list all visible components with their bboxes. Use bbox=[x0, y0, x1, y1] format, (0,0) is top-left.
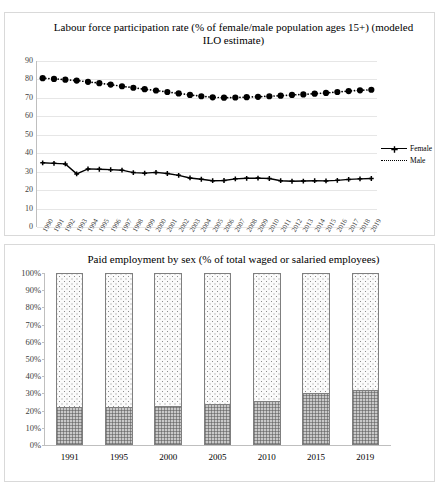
data-point-marker bbox=[289, 92, 295, 98]
legend-label-male: Male bbox=[410, 155, 425, 167]
data-point-marker bbox=[198, 93, 204, 99]
data-point-marker bbox=[97, 167, 102, 172]
line-chart-legend: Female Male bbox=[381, 143, 432, 167]
data-point-marker bbox=[278, 93, 284, 99]
y-axis-tick-label: 30 bbox=[25, 168, 33, 176]
data-point-marker bbox=[85, 79, 91, 85]
bar-segment-female bbox=[57, 407, 83, 444]
female-line-symbol bbox=[381, 144, 407, 154]
series-line-female bbox=[43, 163, 372, 181]
x-axis-tick-label: 1995 bbox=[94, 452, 143, 462]
x-axis-tick-label: 2010 bbox=[242, 452, 291, 462]
data-point-marker bbox=[120, 168, 125, 173]
line-chart-plot-area: 0102030405060708090199019911992199319941… bbox=[37, 61, 377, 227]
bar-segment-female bbox=[155, 406, 181, 444]
x-axis-tick-label: 2019 bbox=[341, 452, 390, 462]
data-point-marker bbox=[187, 92, 193, 98]
y-axis-tick-label: 10% bbox=[25, 424, 41, 432]
data-point-marker bbox=[130, 85, 136, 91]
stacked-bar bbox=[204, 273, 232, 445]
data-point-marker bbox=[290, 179, 295, 184]
data-point-marker bbox=[188, 176, 193, 181]
y-axis-tick-label: 80% bbox=[25, 303, 41, 311]
data-point-marker bbox=[368, 87, 374, 93]
data-point-marker bbox=[153, 87, 159, 93]
y-axis-tick-label: 40% bbox=[25, 372, 41, 380]
series-line-male bbox=[43, 78, 372, 98]
data-point-marker bbox=[176, 173, 181, 178]
y-axis-tick-label: 90% bbox=[25, 286, 41, 294]
stacked-bar bbox=[56, 273, 84, 445]
data-point-marker bbox=[335, 178, 340, 183]
bar-segment-male bbox=[106, 274, 132, 407]
bar-segment-female bbox=[303, 393, 329, 444]
data-point-marker bbox=[74, 77, 80, 83]
data-point-marker bbox=[300, 91, 306, 97]
y-axis-tick-label: 60 bbox=[25, 112, 33, 120]
data-point-marker bbox=[164, 89, 170, 95]
data-point-marker bbox=[62, 77, 68, 83]
data-point-marker bbox=[301, 179, 306, 184]
x-axis-tick-label: 2015 bbox=[291, 452, 340, 462]
data-point-marker bbox=[165, 171, 170, 176]
y-axis-tick-label: 70% bbox=[25, 321, 41, 329]
data-point-marker bbox=[96, 80, 102, 86]
x-axis-line bbox=[44, 445, 391, 446]
line-series-layer bbox=[37, 61, 377, 227]
y-axis-tick-label: 50% bbox=[25, 355, 41, 363]
stacked-bar bbox=[105, 273, 133, 445]
data-point-marker bbox=[142, 86, 148, 92]
x-axis-tick-label: 2005 bbox=[193, 452, 242, 462]
data-point-marker bbox=[334, 89, 340, 95]
data-point-marker bbox=[266, 93, 272, 99]
data-point-marker bbox=[131, 170, 136, 175]
data-point-marker bbox=[278, 178, 283, 183]
y-axis-tick-label: 30% bbox=[25, 389, 41, 397]
line-chart-panel: Labour force participation rate (% of fe… bbox=[4, 12, 435, 236]
x-axis-tick-label: 2000 bbox=[144, 452, 193, 462]
bar-chart-title: Paid employment by sex (% of total waged… bbox=[45, 253, 422, 266]
bar-segment-male bbox=[57, 274, 83, 407]
data-point-marker bbox=[358, 176, 363, 181]
stacked-bar bbox=[253, 273, 281, 445]
legend-item-male: Male bbox=[381, 155, 432, 167]
data-point-marker bbox=[232, 94, 238, 100]
line-chart-title: Labour force participation rate (% of fe… bbox=[45, 21, 422, 47]
bar-segment-male bbox=[303, 274, 329, 393]
x-axis-tick-label: 1991 bbox=[45, 452, 94, 462]
data-point-marker bbox=[51, 76, 57, 82]
bar-chart-panel: Paid employment by sex (% of total waged… bbox=[4, 244, 435, 482]
data-point-marker bbox=[199, 177, 204, 182]
bar-segment-female bbox=[254, 401, 280, 444]
y-axis-tick-label: 80 bbox=[25, 75, 33, 83]
legend-item-female: Female bbox=[381, 143, 432, 155]
bar-segment-male bbox=[353, 274, 379, 390]
y-axis-tick-label: 100% bbox=[21, 269, 41, 277]
data-point-marker bbox=[119, 83, 125, 89]
bar-segment-male bbox=[254, 274, 280, 401]
data-point-marker bbox=[210, 178, 215, 183]
bar-segment-female bbox=[353, 390, 379, 444]
bar-segment-female bbox=[205, 404, 231, 444]
data-point-marker bbox=[267, 176, 272, 181]
y-axis-tick-label: 90 bbox=[25, 57, 33, 65]
y-axis-tick-label: 60% bbox=[25, 338, 41, 346]
data-point-marker bbox=[108, 167, 113, 172]
data-point-marker bbox=[86, 167, 91, 172]
data-point-marker bbox=[40, 160, 45, 165]
bar-segment-male bbox=[155, 274, 181, 406]
data-point-marker bbox=[210, 94, 216, 100]
data-point-marker bbox=[244, 176, 249, 181]
y-axis-tick-label: 10 bbox=[25, 205, 33, 213]
data-point-marker bbox=[324, 178, 329, 183]
data-point-marker bbox=[357, 87, 363, 93]
data-point-marker bbox=[312, 178, 317, 183]
data-point-marker bbox=[255, 94, 261, 100]
y-axis-line bbox=[44, 273, 45, 446]
data-point-marker bbox=[222, 178, 227, 183]
data-point-marker bbox=[369, 176, 374, 181]
data-point-marker bbox=[40, 75, 46, 81]
male-line-symbol bbox=[381, 156, 407, 166]
data-point-marker bbox=[323, 90, 329, 96]
y-axis-tick-label: 70 bbox=[25, 94, 33, 102]
